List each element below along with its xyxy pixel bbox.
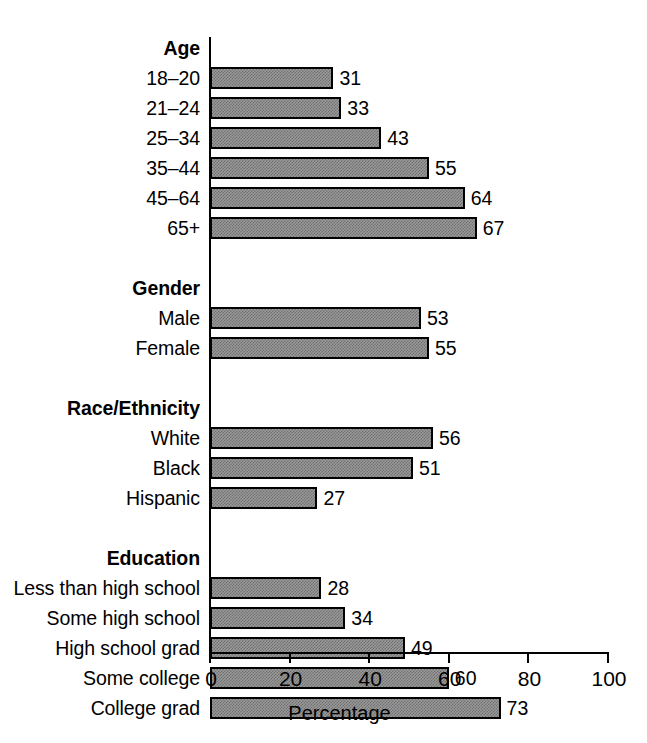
category-label: White — [0, 423, 200, 453]
x-tick-mark — [209, 652, 211, 663]
x-tick-label: 100 — [569, 666, 647, 692]
bar — [210, 187, 465, 209]
x-tick-mark — [368, 652, 370, 663]
bar-row: Black51 — [0, 453, 647, 483]
bar-row: High school grad49 — [0, 633, 647, 663]
bar — [210, 427, 433, 449]
bar — [210, 127, 381, 149]
bar-row: 45–6464 — [0, 183, 647, 213]
bar-row: Female55 — [0, 333, 647, 363]
category-label: Some college — [0, 663, 200, 693]
category-label: 21–24 — [0, 93, 200, 123]
group-header-row: Education — [0, 543, 647, 573]
spacer-row — [0, 243, 647, 273]
x-axis-title: Percentage — [0, 700, 647, 726]
y-axis-line — [209, 37, 211, 654]
spacer-row — [0, 513, 647, 543]
x-tick-label: 20 — [251, 666, 331, 692]
group-header-row: Age — [0, 33, 647, 63]
bar-row: Some high school34 — [0, 603, 647, 633]
bar — [210, 637, 405, 659]
bar — [210, 157, 429, 179]
bar-row: Less than high school28 — [0, 573, 647, 603]
bar-row: White56 — [0, 423, 647, 453]
bar-chart: Age18–203121–243325–344335–445545–646465… — [0, 0, 647, 743]
category-label: Black — [0, 453, 200, 483]
bar-value-label: 28 — [321, 577, 349, 599]
bar-value-label: 55 — [429, 157, 457, 179]
x-tick-mark — [607, 652, 609, 663]
category-label: 25–34 — [0, 123, 200, 153]
group-header-label: Age — [0, 33, 200, 63]
bar-row: Male53 — [0, 303, 647, 333]
bar-value-label: 31 — [333, 67, 361, 89]
category-label: 65+ — [0, 213, 200, 243]
bar — [210, 337, 429, 359]
x-axis-title-text: Percentage — [288, 700, 390, 726]
bar-row: 18–2031 — [0, 63, 647, 93]
category-label: Female — [0, 333, 200, 363]
category-label: 45–64 — [0, 183, 200, 213]
bar-row: 21–2433 — [0, 93, 647, 123]
bar-value-label: 67 — [477, 217, 505, 239]
spacer-row — [0, 363, 647, 393]
category-label: Hispanic — [0, 483, 200, 513]
category-label: 35–44 — [0, 153, 200, 183]
bar-value-label: 51 — [413, 457, 441, 479]
x-axis-line — [209, 652, 608, 654]
group-header-row: Gender — [0, 273, 647, 303]
x-tick-label: 60 — [410, 666, 490, 692]
bar — [210, 97, 341, 119]
category-label: Male — [0, 303, 200, 333]
group-header-row: Race/Ethnicity — [0, 393, 647, 423]
category-label: Less than high school — [0, 573, 200, 603]
bar-value-label: 53 — [421, 307, 449, 329]
bar — [210, 487, 317, 509]
group-header-label: Education — [0, 543, 200, 573]
bar-row: 25–3443 — [0, 123, 647, 153]
bar — [210, 577, 321, 599]
x-tick-label: 0 — [171, 666, 251, 692]
bar-value-label: 56 — [433, 427, 461, 449]
bar-value-label: 55 — [429, 337, 457, 359]
bar-row: 35–4455 — [0, 153, 647, 183]
group-header-label: Gender — [0, 273, 200, 303]
x-tick-mark — [289, 652, 291, 663]
group-header-label: Race/Ethnicity — [0, 393, 200, 423]
bar-value-label: 64 — [465, 187, 493, 209]
bar-value-label: 34 — [345, 607, 373, 629]
x-tick-mark — [527, 652, 529, 663]
category-label: 18–20 — [0, 63, 200, 93]
x-tick-label: 40 — [330, 666, 410, 692]
bar — [210, 307, 421, 329]
bar — [210, 217, 477, 239]
bar-value-label: 33 — [341, 97, 369, 119]
bar-value-label: 27 — [317, 487, 345, 509]
bar-row: 65+67 — [0, 213, 647, 243]
x-tick-label: 80 — [489, 666, 569, 692]
category-label: High school grad — [0, 633, 200, 663]
bar — [210, 607, 345, 629]
bar — [210, 457, 413, 479]
bar-value-label: 49 — [405, 637, 433, 659]
x-tick-mark — [448, 652, 450, 663]
bar-value-label: 43 — [381, 127, 409, 149]
category-label: Some high school — [0, 603, 200, 633]
bar — [210, 67, 333, 89]
bar-row: Hispanic27 — [0, 483, 647, 513]
